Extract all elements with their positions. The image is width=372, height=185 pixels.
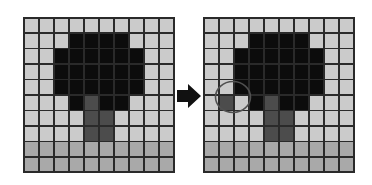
grid-cell: [325, 96, 338, 110]
grid-cell: [160, 111, 173, 125]
grid-cell: [85, 111, 98, 125]
grid-cell: [280, 158, 293, 172]
grid-cell: [115, 80, 128, 94]
grid-cell: [115, 65, 128, 79]
grid-cell: [70, 127, 83, 141]
grid-cell: [130, 49, 143, 63]
grid-cell: [310, 111, 323, 125]
grid-cell: [85, 127, 98, 141]
grid-cell: [295, 19, 308, 33]
grid-cell: [250, 142, 263, 156]
grid-cell: [55, 65, 68, 79]
grid-cell: [250, 96, 263, 110]
grid-cell: [160, 142, 173, 156]
grid-cell: [280, 80, 293, 94]
grid-cell: [220, 49, 233, 63]
grid-cell: [220, 111, 233, 125]
grid-cell: [265, 127, 278, 141]
grid-cell: [25, 111, 38, 125]
grid-cell: [145, 49, 158, 63]
grid-cell: [325, 34, 338, 48]
grid-cell: [295, 142, 308, 156]
grid-cell: [235, 96, 248, 110]
grid-cell: [40, 96, 53, 110]
grid-cell: [130, 127, 143, 141]
grid-cell: [25, 127, 38, 141]
grid-cell: [115, 19, 128, 33]
grid-cell: [145, 65, 158, 79]
grid-cell: [130, 80, 143, 94]
grid-cell: [160, 19, 173, 33]
grid-cell: [310, 96, 323, 110]
grid-cell: [220, 158, 233, 172]
grid-cell: [40, 111, 53, 125]
grid-cell: [280, 96, 293, 110]
grid-cell: [280, 19, 293, 33]
grid-cell: [85, 34, 98, 48]
grid-cell: [280, 65, 293, 79]
grid-cell: [235, 127, 248, 141]
grid-cell: [40, 127, 53, 141]
grid-cell: [340, 142, 353, 156]
grid-cell: [265, 96, 278, 110]
grid-cell: [205, 142, 218, 156]
grid-cell: [100, 111, 113, 125]
grid-cell: [280, 111, 293, 125]
grid-cell: [295, 127, 308, 141]
grid-cell: [235, 142, 248, 156]
grid-cell: [325, 142, 338, 156]
grid-cell: [250, 111, 263, 125]
grid-cell: [145, 80, 158, 94]
grid-cell: [100, 49, 113, 63]
grid-cell: [265, 65, 278, 79]
grid-cell: [310, 127, 323, 141]
grid-cell: [340, 80, 353, 94]
grid-cell: [40, 19, 53, 33]
grid-cell: [130, 19, 143, 33]
grid-cell: [220, 65, 233, 79]
grid-cell: [115, 158, 128, 172]
grid-cell: [25, 142, 38, 156]
grid-cell: [70, 34, 83, 48]
grid-cell: [100, 142, 113, 156]
grid-cell: [145, 111, 158, 125]
grid-cell: [100, 19, 113, 33]
grid-cell: [55, 127, 68, 141]
grid-cell: [265, 142, 278, 156]
grid-cell: [130, 96, 143, 110]
grid-cell: [70, 19, 83, 33]
grid-cell: [340, 65, 353, 79]
grid-cell: [145, 127, 158, 141]
grid-cell: [130, 142, 143, 156]
grid-cell: [250, 49, 263, 63]
grid-cell: [55, 19, 68, 33]
grid-cell: [40, 80, 53, 94]
grid-cell: [205, 19, 218, 33]
grid-cell: [160, 65, 173, 79]
grid-cell: [70, 96, 83, 110]
grid-cell: [205, 127, 218, 141]
grid-cell: [310, 142, 323, 156]
grid-cell: [160, 80, 173, 94]
grid-cell: [100, 34, 113, 48]
grid-cell: [40, 34, 53, 48]
grid-cell: [130, 34, 143, 48]
grid-cell: [250, 34, 263, 48]
grid-after: [203, 17, 355, 173]
grid-cell: [115, 127, 128, 141]
grid-cell: [325, 80, 338, 94]
grid-cell: [55, 96, 68, 110]
grid-cell: [205, 111, 218, 125]
grid-cell: [250, 65, 263, 79]
grid-cell: [325, 19, 338, 33]
grid-cell: [310, 19, 323, 33]
grid-cell: [145, 34, 158, 48]
grid-cell: [310, 34, 323, 48]
grid-cell: [310, 65, 323, 79]
grid-cell: [340, 19, 353, 33]
grid-cell: [40, 49, 53, 63]
grid-cell: [265, 111, 278, 125]
grid-cell: [295, 65, 308, 79]
grid-cell: [145, 158, 158, 172]
grid-cell: [55, 111, 68, 125]
